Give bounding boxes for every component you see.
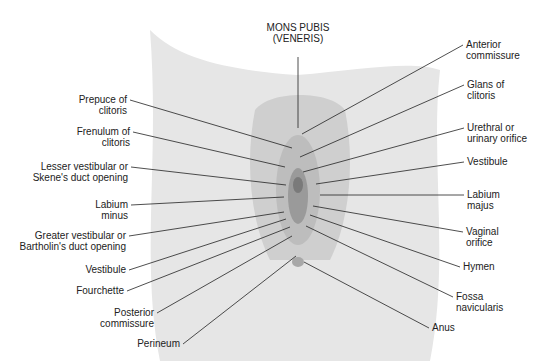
label-vaginal-orifice: Vaginal orifice	[466, 226, 499, 248]
label-fourchette: Fourchette	[76, 285, 124, 296]
label-anterior-commissure: Anterior commissure	[466, 39, 520, 61]
label-lesser-vestibular-or-skene-s-duct-opening: Lesser vestibular or Skene's duct openin…	[33, 161, 128, 183]
label-vestibule: Vestibule	[85, 264, 126, 275]
label-anus: Anus	[432, 322, 455, 333]
label-fossa-navicularis: Fossa navicularis	[456, 291, 503, 313]
label-greater-vestibular-or-bartholin-s-duct-opening: Greater vestibular or Bartholin's duct o…	[20, 230, 126, 252]
label-glans-of-clitoris: Glans of clitoris	[467, 79, 504, 101]
label-labium-minus: Labium minus	[95, 199, 128, 221]
label-urethral-or-urinary-orifice: Urethral or urinary orifice	[467, 122, 527, 144]
label-labium-majus: Labium majus	[467, 189, 500, 211]
illustration-shapes	[150, 30, 440, 361]
label-vestibule: Vestibule	[467, 156, 508, 167]
label-hymen: Hymen	[463, 261, 495, 272]
label-perineum: Perineum	[137, 338, 180, 349]
label-mons-pubis: MONS PUBIS (VENERIS)	[262, 22, 334, 44]
label-posterior-commissure: Posterior commissure	[100, 307, 154, 329]
label-frenulum-of-clitoris: Frenulum of clitoris	[77, 126, 130, 148]
label-prepuce-of-clitoris: Prepuce of clitoris	[79, 94, 127, 116]
